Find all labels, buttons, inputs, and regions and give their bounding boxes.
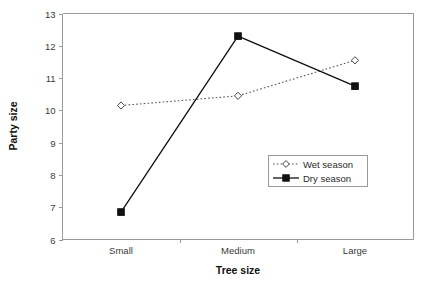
x-category-label-medium: Medium <box>221 245 255 256</box>
y-tick-label: 7 <box>50 202 55 213</box>
data-point-dry-season-medium <box>235 33 242 40</box>
legend-label-dry-season: Dry season <box>303 173 351 184</box>
y-tick-label: 11 <box>46 73 56 84</box>
x-category-label-large: Large <box>343 245 367 256</box>
y-tick-label: 9 <box>50 138 55 149</box>
chart-background <box>0 0 430 284</box>
line-chart: 678910111213 SmallMediumLarge Wet season… <box>0 0 430 284</box>
chart-container: 678910111213 SmallMediumLarge Wet season… <box>0 0 430 284</box>
y-tick-label: 8 <box>50 170 55 181</box>
legend-label-wet-season: Wet season <box>303 159 353 170</box>
legend: Wet season Dry season <box>269 156 368 187</box>
data-point-dry-season-small <box>118 209 125 216</box>
y-tick-label: 6 <box>50 235 55 246</box>
y-axis-title: Party size <box>7 101 19 150</box>
legend-marker-dry-square <box>283 175 289 181</box>
x-category-label-small: Small <box>109 245 133 256</box>
x-axis-title: Tree size <box>216 264 261 276</box>
data-point-dry-season-large <box>352 83 359 90</box>
y-tick-label: 12 <box>45 41 56 52</box>
y-tick-label: 10 <box>45 105 56 116</box>
y-tick-label: 13 <box>45 9 56 20</box>
